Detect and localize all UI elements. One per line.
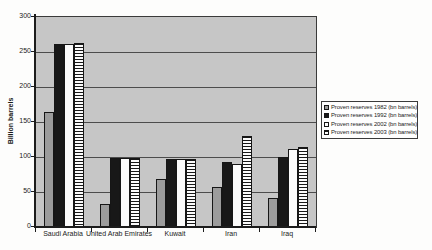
y-tick-mark-200 (31, 86, 35, 87)
legend-item-1: Proven reserves 1992 (bn barrels) (324, 112, 415, 119)
legend-swatch-gray-icon (324, 105, 329, 110)
legend-swatch-white-icon (324, 122, 329, 127)
y-tick-mark-0 (31, 226, 35, 227)
y-tick-mark-50 (31, 191, 35, 192)
x-axis-line (34, 226, 316, 228)
bar-white-saudi-arabia (64, 44, 74, 227)
bar-striped-iraq (298, 147, 308, 228)
legend-label-1: Proven reserves 1992 (bn barrels) (331, 112, 417, 119)
bar-black-saudi-arabia (54, 44, 64, 227)
y-tick-label-300: 300 (0, 12, 31, 20)
y-tick-label-50: 50 (0, 187, 31, 195)
plot-area (35, 16, 317, 228)
category-label-iraq: Iraq (242, 230, 332, 238)
bar-striped-iran (242, 136, 252, 227)
legend: Proven reserves 1982 (bn barrels)Proven … (321, 101, 418, 139)
bar-gray-kuwait (156, 179, 166, 227)
bar-black-kuwait (166, 159, 176, 227)
bar-white-united-arab-emirates (120, 158, 130, 227)
bar-white-iraq (288, 149, 298, 227)
legend-item-0: Proven reserves 1982 (bn barrels) (324, 104, 415, 111)
legend-label-3: Proven reserves 2003 (bn barrels) (331, 129, 417, 136)
bar-striped-saudi-arabia (74, 43, 84, 227)
legend-swatch-striped-icon (324, 130, 329, 135)
y-tick-label-250: 250 (0, 47, 31, 55)
bar-white-kuwait (176, 159, 186, 227)
y-tick-label-100: 100 (0, 152, 31, 160)
scanned-chart-page: Billion barrels 050100150200250300 Saudi… (0, 0, 432, 250)
y-tick-mark-100 (31, 156, 35, 157)
y-tick-label-200: 200 (0, 82, 31, 90)
bar-white-iran (232, 164, 242, 227)
legend-label-0: Proven reserves 1982 (bn barrels) (331, 104, 417, 111)
legend-item-3: Proven reserves 2003 (bn barrels) (324, 129, 415, 136)
y-tick-label-150: 150 (0, 117, 31, 125)
bar-black-united-arab-emirates (110, 158, 120, 227)
y-tick-mark-150 (31, 121, 35, 122)
bar-gray-iran (212, 187, 222, 227)
bar-gray-united-arab-emirates (100, 204, 110, 227)
legend-swatch-black-icon (324, 113, 329, 118)
bar-black-iran (222, 162, 232, 227)
bar-striped-kuwait (186, 159, 196, 227)
bar-gray-saudi-arabia (44, 112, 54, 228)
legend-label-2: Proven reserves 2002 (bn barrels) (331, 121, 417, 128)
legend-item-2: Proven reserves 2002 (bn barrels) (324, 121, 415, 128)
y-tick-mark-300 (31, 16, 35, 17)
bar-striped-united-arab-emirates (130, 158, 140, 227)
y-tick-label-0: 0 (0, 222, 31, 230)
y-tick-mark-250 (31, 51, 35, 52)
bar-black-iraq (278, 157, 288, 227)
bar-gray-iraq (268, 198, 278, 227)
